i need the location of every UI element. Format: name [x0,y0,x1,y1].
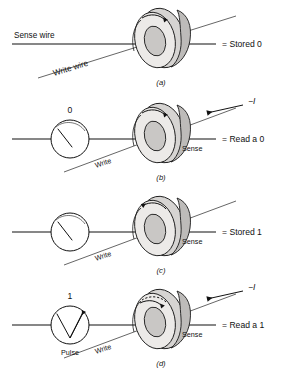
gauge-value-d: 1 [68,291,73,301]
current-label-b: −I [248,96,256,106]
current-label-d: −I [248,282,256,292]
gauge-value-b: 0 [68,105,73,115]
panel-caption-b: (b) [156,173,166,182]
gauge-bottom-label-d: Pulse [61,348,79,357]
gauge-c [51,213,89,251]
sense-label-b: Sense [182,144,202,153]
result-label-d: = Read a 1 [222,320,265,330]
panel-caption-a: (a) [156,78,166,87]
result-label-a: = Stored 0 [222,39,262,49]
result-label-c: = Stored 1 [222,227,262,237]
result-label-b: = Read a 0 [222,134,265,144]
sense-label-c: Sense [182,237,202,246]
panel-caption-c: (c) [157,266,166,275]
core-memory-figure: Sense wire Write wire = Stored 0 (a) 0 −… [0,0,300,375]
panel-caption-d: (d) [156,359,166,368]
sense-wire-label-a: Sense wire [14,31,55,40]
figure-canvas: Sense wire Write wire = Stored 0 (a) 0 −… [0,0,300,375]
sense-label-d: Sense [182,330,202,339]
